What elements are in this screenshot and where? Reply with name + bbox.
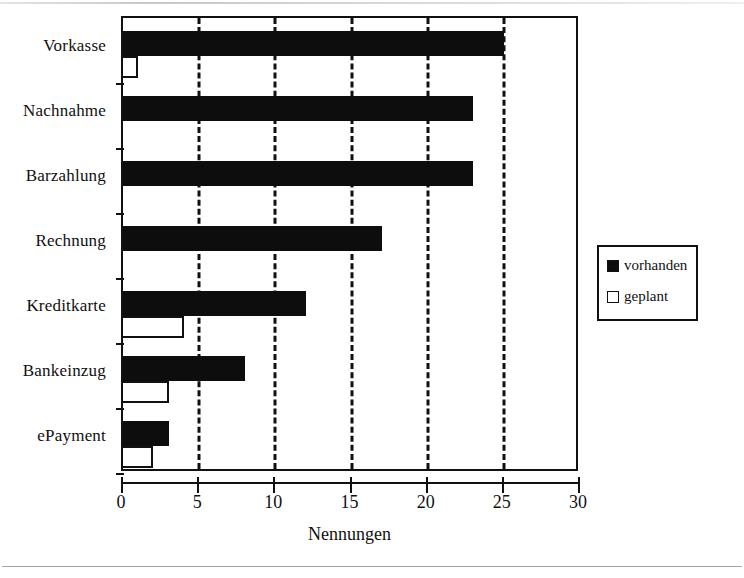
- legend-item-geplant: geplant: [607, 289, 668, 304]
- bar-vorhanden-rechnung: [123, 226, 382, 251]
- bar-vorhanden-bankeinzug: [123, 356, 245, 381]
- bar-vorhanden-nachnahme: [123, 96, 473, 121]
- legend-item-vorhanden: vorhanden: [607, 258, 687, 273]
- y-axis-tick-3: [116, 278, 124, 280]
- plot-area: [123, 18, 576, 469]
- y-axis-label-kreditkarte: Kreditkarte: [0, 296, 112, 316]
- x-axis-tick-label-25: 25: [493, 492, 511, 513]
- x-axis-tick-labels: 051015202530: [121, 492, 578, 518]
- x-axis-tick-5: [197, 477, 199, 493]
- y-axis-category-labels: VorkasseNachnahmeBarzahlungRechnungKredi…: [0, 16, 112, 471]
- bar-geplant-kreditkarte: [123, 316, 184, 338]
- x-axis-tick-10: [273, 477, 275, 493]
- chart-legend: vorhandengeplant: [597, 245, 698, 321]
- y-axis-tick-4: [116, 343, 124, 345]
- y-axis-label-rechnung: Rechnung: [0, 231, 112, 251]
- x-axis-tick-label-20: 20: [417, 492, 435, 513]
- bar-vorhanden-epayment: [123, 421, 169, 446]
- y-axis-label-barzahlung: Barzahlung: [0, 166, 112, 186]
- gridline-20: [426, 18, 429, 469]
- y-axis-tick-6: [116, 473, 124, 475]
- bar-geplant-bankeinzug: [123, 381, 169, 403]
- x-axis-tick-label-15: 15: [341, 492, 359, 513]
- x-axis-title: Nennungen: [121, 524, 578, 545]
- y-axis-tick-0: [116, 83, 124, 85]
- x-axis-tick-25: [502, 477, 504, 493]
- y-axis-label-bankeinzug: Bankeinzug: [0, 361, 112, 381]
- page-bottom-rule: [2, 566, 742, 567]
- y-axis-tick-1: [116, 148, 124, 150]
- x-axis-line: [121, 482, 578, 484]
- bar-vorhanden-kreditkarte: [123, 291, 306, 316]
- plot-area-frame: [121, 16, 578, 471]
- x-axis-tick-15: [350, 477, 352, 493]
- y-axis-tick-5: [116, 408, 124, 410]
- bar-vorhanden-barzahlung: [123, 161, 473, 186]
- gridline-25: [502, 18, 505, 469]
- chart-page: VorkasseNachnahmeBarzahlungRechnungKredi…: [0, 0, 744, 578]
- y-axis-label-epayment: ePayment: [0, 426, 112, 446]
- y-axis-label-vorkasse: Vorkasse: [0, 36, 112, 56]
- x-axis-tick-20: [426, 477, 428, 493]
- y-axis-label-nachnahme: Nachnahme: [0, 101, 112, 121]
- x-axis-tick-label-0: 0: [117, 492, 126, 513]
- filled-square-icon: [607, 260, 619, 272]
- x-axis-tick-label-30: 30: [569, 492, 587, 513]
- x-axis-tick-30: [578, 477, 580, 493]
- hollow-square-icon: [607, 291, 619, 303]
- legend-label-geplant: geplant: [624, 289, 668, 304]
- bar-vorhanden-vorkasse: [123, 31, 504, 56]
- x-axis-tick-label-10: 10: [264, 492, 282, 513]
- y-axis-tick-2: [116, 213, 124, 215]
- page-top-rule: [0, 2, 744, 4]
- legend-label-vorhanden: vorhanden: [624, 258, 687, 273]
- bar-geplant-epayment: [123, 446, 153, 468]
- bar-geplant-vorkasse: [123, 56, 138, 78]
- x-axis-tick-0: [121, 477, 123, 493]
- x-axis-tick-label-5: 5: [193, 492, 202, 513]
